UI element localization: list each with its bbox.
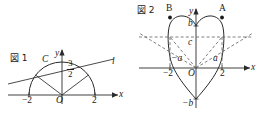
figure-1-x-tick-right-label: 2	[92, 96, 97, 106]
figure-1-x-axis-label: x	[119, 90, 123, 100]
figure-2-caption: 図 2	[137, 6, 155, 15]
figure-1-y-axis-label: y	[55, 49, 59, 59]
figure-2: 図 2 B A y x O −2 2 b −b c a −a	[125, 0, 259, 115]
figure-1-fraction-denominator: 2	[67, 70, 74, 79]
figure-2-level-label-c: c	[188, 38, 192, 48]
figure-1-origin-label: O	[56, 96, 63, 106]
figure-1-fraction-numerator: 3	[67, 59, 74, 68]
figure-2-v-line-right	[196, 37, 222, 68]
figure-1-ray-right	[62, 75, 89, 95]
figure-1-x-tick-left-label: −2	[22, 96, 32, 106]
figure-2-y-axis-label: y	[189, 7, 193, 17]
figure-2-point-A-label: A	[219, 4, 226, 14]
figure-2-x-value-right-label: a	[213, 54, 218, 64]
figure-2-x-tick-right-label: 2	[220, 69, 225, 79]
figure-2-point-B-label: B	[166, 4, 172, 14]
figure-2-y-tick-bottom-label: −b	[182, 99, 193, 109]
figure-1-curve-label-C: C	[42, 55, 48, 65]
figure-1-caption: 図 1	[10, 54, 28, 63]
figure-2-point-A-marker	[220, 16, 224, 20]
diagram-canvas: 図 1 C l y x O −2 2 3 2	[0, 0, 259, 115]
figure-2-x-axis-label: x	[251, 63, 255, 73]
figure-2-y-tick-top-label: b	[188, 19, 193, 29]
figure-2-x-tick-left-label: −2	[163, 69, 173, 79]
figure-2-origin-label: O	[188, 69, 195, 79]
figure-1-y-value-fraction: 3 2	[67, 59, 74, 80]
figure-2-point-B-marker	[168, 16, 172, 20]
figure-1-line-label-l: l	[112, 57, 115, 67]
figure-1-ray-left	[36, 75, 63, 95]
figure-2-x-value-left-label: −a	[171, 54, 182, 64]
figure-1: 図 1 C l y x O −2 2 3 2	[0, 0, 130, 115]
